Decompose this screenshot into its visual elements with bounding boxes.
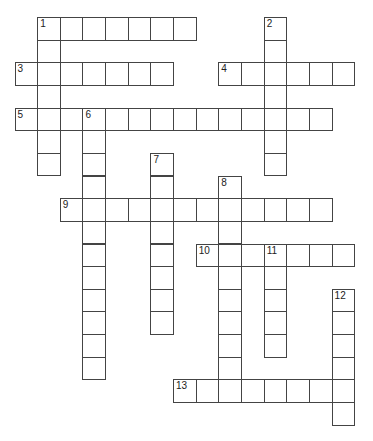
crossword-cell[interactable] xyxy=(218,266,242,290)
crossword-cell[interactable] xyxy=(309,62,333,86)
crossword-cell[interactable] xyxy=(286,62,310,86)
crossword-cell[interactable] xyxy=(82,311,106,335)
crossword-cell[interactable] xyxy=(241,62,265,86)
crossword-cell[interactable]: 10 xyxy=(196,244,220,268)
crossword-cell[interactable] xyxy=(82,198,106,222)
crossword-cell[interactable] xyxy=(82,62,106,86)
crossword-cell[interactable] xyxy=(128,108,152,132)
crossword-cell[interactable] xyxy=(264,40,288,64)
crossword-cell[interactable] xyxy=(128,62,152,86)
crossword-cell[interactable] xyxy=(82,153,106,177)
crossword-cell[interactable] xyxy=(332,379,356,403)
crossword-cell[interactable] xyxy=(37,153,61,177)
crossword-cell[interactable]: 3 xyxy=(15,62,39,86)
crossword-cell[interactable] xyxy=(264,289,288,313)
crossword-cell[interactable] xyxy=(332,311,356,335)
crossword-cell[interactable]: 4 xyxy=(218,62,242,86)
crossword-cell[interactable]: 1 xyxy=(37,17,61,41)
crossword-cell[interactable] xyxy=(286,244,310,268)
crossword-cell[interactable] xyxy=(82,130,106,154)
crossword-cell[interactable] xyxy=(105,198,129,222)
crossword-cell[interactable]: 12 xyxy=(332,289,356,313)
crossword-cell[interactable] xyxy=(332,244,356,268)
crossword-cell[interactable] xyxy=(218,221,242,245)
crossword-cell[interactable] xyxy=(264,130,288,154)
crossword-cell[interactable] xyxy=(37,62,61,86)
crossword-cell[interactable] xyxy=(218,357,242,381)
crossword-cell[interactable] xyxy=(37,40,61,64)
crossword-cell[interactable] xyxy=(105,62,129,86)
crossword-cell[interactable] xyxy=(150,221,174,245)
crossword-cell[interactable] xyxy=(286,198,310,222)
crossword-cell[interactable] xyxy=(309,379,333,403)
crossword-cell[interactable] xyxy=(218,244,242,268)
crossword-cell[interactable] xyxy=(218,311,242,335)
crossword-cell[interactable] xyxy=(82,357,106,381)
crossword-cell[interactable] xyxy=(332,402,356,426)
crossword-cell[interactable]: 8 xyxy=(218,176,242,200)
crossword-cell[interactable] xyxy=(82,334,106,358)
crossword-cell[interactable]: 7 xyxy=(150,153,174,177)
crossword-cell[interactable] xyxy=(173,17,197,41)
crossword-cell[interactable]: 13 xyxy=(173,379,197,403)
crossword-cell[interactable] xyxy=(264,379,288,403)
crossword-cell[interactable] xyxy=(150,266,174,290)
crossword-cell[interactable] xyxy=(82,244,106,268)
crossword-cell[interactable] xyxy=(264,108,288,132)
crossword-cell[interactable] xyxy=(37,130,61,154)
crossword-cell[interactable] xyxy=(332,334,356,358)
crossword-cell[interactable] xyxy=(264,85,288,109)
crossword-cell[interactable] xyxy=(173,108,197,132)
crossword-cell[interactable] xyxy=(286,108,310,132)
crossword-cell[interactable] xyxy=(241,379,265,403)
crossword-cell[interactable] xyxy=(309,198,333,222)
crossword-cell[interactable] xyxy=(82,176,106,200)
crossword-cell[interactable] xyxy=(60,62,84,86)
crossword-cell[interactable] xyxy=(309,244,333,268)
crossword-cell[interactable] xyxy=(241,244,265,268)
crossword-cell[interactable] xyxy=(264,334,288,358)
crossword-cell[interactable] xyxy=(150,311,174,335)
crossword-cell[interactable] xyxy=(150,244,174,268)
crossword-cell[interactable] xyxy=(196,198,220,222)
crossword-cell[interactable] xyxy=(150,176,174,200)
crossword-cell[interactable] xyxy=(37,85,61,109)
crossword-cell[interactable] xyxy=(218,334,242,358)
crossword-cell[interactable] xyxy=(264,153,288,177)
crossword-cell[interactable] xyxy=(128,17,152,41)
crossword-cell[interactable]: 2 xyxy=(264,17,288,41)
crossword-cell[interactable] xyxy=(196,379,220,403)
crossword-cell[interactable]: 11 xyxy=(264,244,288,268)
crossword-cell[interactable] xyxy=(82,17,106,41)
crossword-cell[interactable] xyxy=(150,108,174,132)
crossword-cell[interactable] xyxy=(218,379,242,403)
crossword-cell[interactable] xyxy=(150,198,174,222)
crossword-cell[interactable] xyxy=(128,198,152,222)
crossword-cell[interactable] xyxy=(241,108,265,132)
crossword-cell[interactable] xyxy=(286,379,310,403)
crossword-cell[interactable] xyxy=(218,198,242,222)
crossword-cell[interactable] xyxy=(332,62,356,86)
crossword-cell[interactable] xyxy=(150,62,174,86)
crossword-cell[interactable] xyxy=(173,198,197,222)
crossword-cell[interactable]: 9 xyxy=(60,198,84,222)
crossword-cell[interactable] xyxy=(60,108,84,132)
crossword-cell[interactable]: 6 xyxy=(82,108,106,132)
crossword-cell[interactable] xyxy=(196,108,220,132)
crossword-cell[interactable] xyxy=(218,108,242,132)
crossword-cell[interactable] xyxy=(37,108,61,132)
crossword-cell[interactable] xyxy=(82,266,106,290)
crossword-cell[interactable] xyxy=(241,198,265,222)
crossword-cell[interactable] xyxy=(105,17,129,41)
crossword-cell[interactable] xyxy=(105,108,129,132)
crossword-cell[interactable] xyxy=(82,221,106,245)
crossword-cell[interactable] xyxy=(218,289,242,313)
crossword-cell[interactable]: 5 xyxy=(15,108,39,132)
crossword-cell[interactable] xyxy=(264,198,288,222)
crossword-cell[interactable] xyxy=(150,17,174,41)
crossword-cell[interactable] xyxy=(150,289,174,313)
crossword-cell[interactable] xyxy=(264,62,288,86)
crossword-cell[interactable] xyxy=(309,108,333,132)
crossword-cell[interactable] xyxy=(264,266,288,290)
crossword-cell[interactable] xyxy=(60,17,84,41)
